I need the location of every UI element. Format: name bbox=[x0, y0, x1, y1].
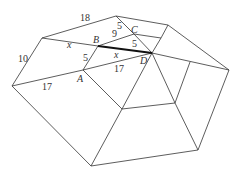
edge-d-ibl bbox=[122, 53, 152, 109]
edge-d-ibr bbox=[152, 53, 175, 103]
label-17-ad: 17 bbox=[114, 63, 124, 74]
edge-cr-tr bbox=[161, 25, 168, 38]
vertex-label-a: A bbox=[76, 73, 84, 84]
label-x-bd: x bbox=[113, 49, 119, 60]
highlighted-edge-bd bbox=[98, 46, 152, 53]
label-17-left: 17 bbox=[42, 81, 52, 92]
edge-ibl-bot bbox=[91, 109, 122, 166]
edge-cr-d bbox=[152, 38, 161, 53]
label-18: 18 bbox=[80, 12, 90, 23]
polyhedron-diagram: 18 10 17 17 5 9 5 5 x x A B C D bbox=[0, 0, 243, 173]
vertex-label-d: D bbox=[139, 55, 148, 66]
vertex-label-b: B bbox=[93, 34, 99, 45]
edge-ibr-br bbox=[175, 103, 198, 150]
edge-ibl-ibr bbox=[122, 103, 175, 109]
label-10: 10 bbox=[18, 53, 28, 64]
edge-rm-ibr bbox=[175, 62, 190, 103]
vertex-label-c: C bbox=[131, 24, 138, 35]
edge-a-ibl bbox=[83, 70, 122, 109]
label-x-tlb: x bbox=[66, 39, 72, 50]
label-5-cd: 5 bbox=[132, 38, 137, 49]
label-5-ab: 5 bbox=[83, 52, 88, 63]
label-5-tc: 5 bbox=[117, 20, 122, 31]
edge-c-cr bbox=[134, 34, 161, 38]
